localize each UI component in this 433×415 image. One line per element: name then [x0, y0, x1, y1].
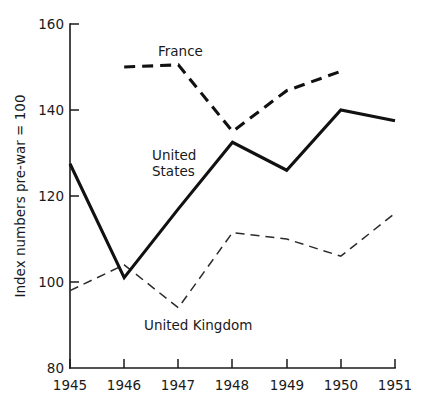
x-tick-label-1947: 1947 — [161, 377, 195, 393]
y-axis-title: Index numbers pre-war = 100 — [12, 95, 28, 298]
series-label-united-kingdom: United Kingdom — [144, 317, 252, 333]
series-label-united-states-line2: States — [152, 163, 195, 179]
x-tick-label-1951: 1951 — [378, 377, 412, 393]
y-tick-label-120: 120 — [38, 188, 64, 204]
x-tick-label-1945: 1945 — [53, 377, 87, 393]
series-line-france — [124, 65, 341, 132]
y-tick-label-80: 80 — [47, 360, 64, 376]
chart-canvas: 160 140 120 100 80 1945 1946 1947 1948 1… — [0, 0, 433, 415]
line-chart: 160 140 120 100 80 1945 1946 1947 1948 1… — [0, 0, 433, 415]
series-label-france: France — [158, 43, 203, 59]
x-tick-label-1950: 1950 — [324, 377, 358, 393]
y-tick-label-140: 140 — [38, 102, 64, 118]
x-tick-label-1949: 1949 — [270, 377, 304, 393]
y-tick-label-100: 100 — [38, 274, 64, 290]
series-label-united-states-line1: United — [152, 147, 196, 163]
x-tick-label-1948: 1948 — [215, 377, 249, 393]
series-line-united-kingdom — [70, 213, 395, 308]
series-line-united-states — [70, 110, 395, 278]
x-tick-label-1946: 1946 — [107, 377, 141, 393]
y-tick-label-160: 160 — [38, 16, 64, 32]
